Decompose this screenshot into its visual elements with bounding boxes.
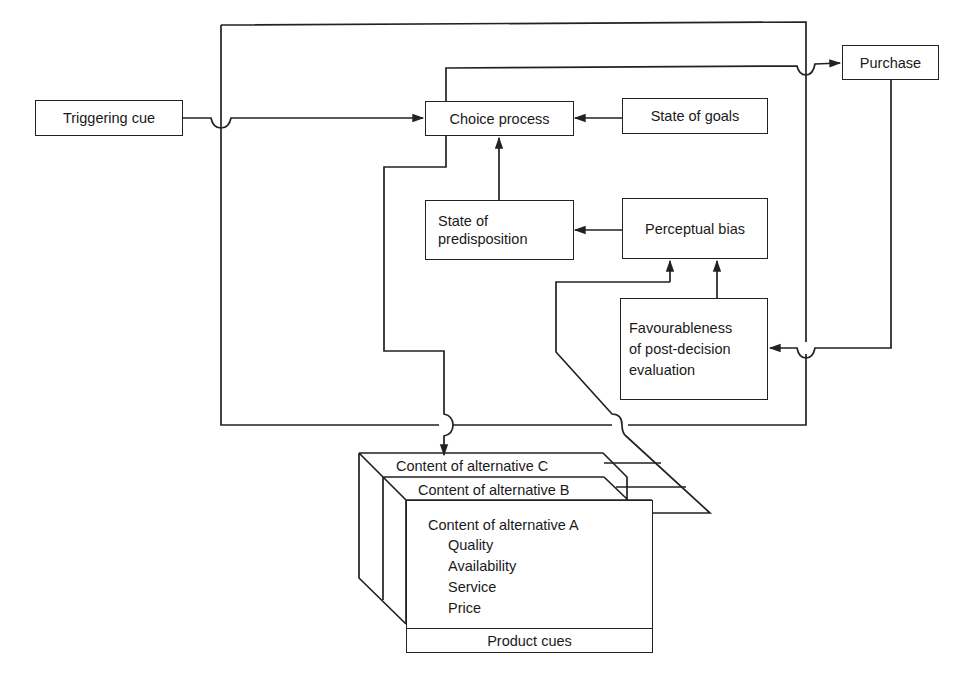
node-product-cues: Product cues <box>406 628 653 653</box>
node-triggering-cue: Triggering cue <box>35 100 183 136</box>
node-perceptual-bias: Perceptual bias <box>622 198 768 259</box>
alternative-a-attributes: Quality Availability Service Price <box>448 535 516 619</box>
state-of-goals-label: State of goals <box>651 107 740 125</box>
attribute-service: Service <box>448 577 516 598</box>
attribute-quality: Quality <box>448 535 516 556</box>
attribute-price: Price <box>448 598 516 619</box>
attribute-availability: Availability <box>448 556 516 577</box>
state-of-predisposition-label: State of predisposition <box>438 212 527 248</box>
node-state-of-predisposition: State of predisposition <box>425 200 574 260</box>
favourableness-label: Favourableness of post-decision evaluati… <box>629 318 732 381</box>
edge-purchase-to-favourableness <box>770 80 891 358</box>
product-cues-label: Product cues <box>487 632 572 650</box>
node-alternative-a: Content of alternative A Quality Availab… <box>406 500 653 628</box>
alternative-a-label: Content of alternative A <box>428 516 579 534</box>
alternative-b-label: Content of alternative B <box>418 481 570 499</box>
edge-choice-to-alternatives <box>384 136 453 455</box>
edge-trigger-to-choice <box>182 118 423 128</box>
alternative-c-label: Content of alternative C <box>396 457 548 475</box>
node-choice-process: Choice process <box>425 101 574 136</box>
triggering-cue-label: Triggering cue <box>63 109 155 127</box>
node-purchase: Purchase <box>842 45 939 80</box>
perceptual-bias-label: Perceptual bias <box>645 220 745 238</box>
node-favourableness: Favourableness of post-decision evaluati… <box>620 298 768 400</box>
choice-process-label: Choice process <box>450 110 550 128</box>
purchase-label: Purchase <box>860 54 921 72</box>
node-state-of-goals: State of goals <box>622 98 768 134</box>
edge-choice-to-purchase <box>446 63 840 101</box>
